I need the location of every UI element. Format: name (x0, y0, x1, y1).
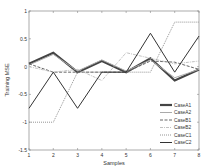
legend-label: CaseC2 (174, 140, 192, 145)
x-tick-label: 4 (100, 152, 103, 158)
legend-label: CaseB2 (174, 125, 191, 130)
y-tick-label: -0.5 (18, 91, 27, 97)
y-tick-label: -1.5 (18, 147, 27, 153)
legend-label: CaseA1 (174, 103, 191, 108)
x-tick-label: 5 (125, 152, 128, 158)
line-chart: 1234567810.50-0.5-1-1.5 CaseA1CaseA2Case… (0, 0, 212, 167)
x-tick-label: 8 (198, 152, 201, 158)
y-tick-label: 0.5 (20, 36, 27, 42)
x-tick-label: 3 (76, 152, 79, 158)
x-tick-label: 6 (149, 152, 152, 158)
x-axis-label: Samples (103, 160, 125, 166)
x-tick-label: 1 (28, 152, 31, 158)
y-tick-label: 1 (24, 8, 27, 14)
y-axis-label: Training MSE (4, 63, 10, 96)
x-tick-label: 7 (173, 152, 176, 158)
legend-label: CaseC1 (174, 133, 192, 138)
y-tick-label: 0 (24, 64, 27, 70)
legend-label: CaseA2 (174, 110, 191, 115)
legend-label: CaseB1 (174, 118, 191, 123)
x-tick-label: 2 (52, 152, 55, 158)
y-tick-label: -1 (23, 119, 28, 125)
